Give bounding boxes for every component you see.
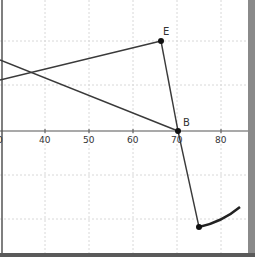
- segment-EB[interactable]: [161, 41, 178, 131]
- segments: [0, 41, 199, 227]
- tick-label-80: 80: [215, 135, 226, 145]
- point-label-B: B: [183, 117, 190, 128]
- tick-label-0: 0: [0, 135, 3, 145]
- point-E[interactable]: [158, 38, 164, 44]
- arc-curve[interactable]: [199, 207, 240, 227]
- tick-label-60: 60: [127, 135, 138, 145]
- bottom-border: [0, 253, 255, 257]
- point-B[interactable]: [175, 128, 181, 134]
- geometry-canvas[interactable]: 0 40 50 60 70 80 E B: [0, 0, 255, 257]
- tick-label-40: 40: [39, 135, 50, 145]
- tick-label-50: 50: [83, 135, 94, 145]
- tick-label-70: 70: [171, 135, 182, 145]
- graph-svg: [0, 0, 255, 257]
- point-label-E: E: [163, 26, 169, 37]
- right-gutter: [248, 0, 255, 257]
- segment-BC[interactable]: [178, 131, 199, 227]
- grid: [0, 0, 248, 253]
- point-C[interactable]: [196, 224, 202, 230]
- line-to-E[interactable]: [0, 41, 161, 80]
